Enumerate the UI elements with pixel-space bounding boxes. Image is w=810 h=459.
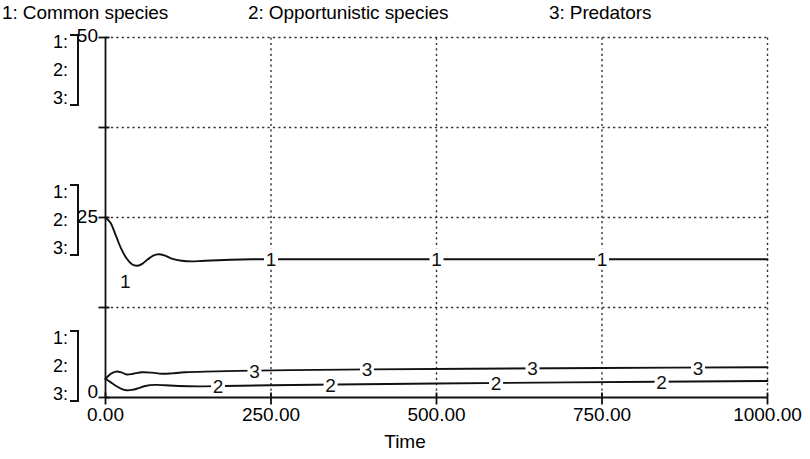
curve-label-3: 3 [527,358,538,379]
curve-label-3: 3 [249,361,260,382]
x-tick-label-1: 250.00 [242,404,300,426]
curve-label-2: 2 [656,372,667,393]
curve-label-1: 1 [431,249,442,270]
x-tick-label-2: 500.00 [407,404,465,426]
curve-label-2: 2 [491,373,502,394]
curve-label-2: 2 [325,375,336,396]
axis-ticks [99,38,768,405]
x-tick-label-3: 750.00 [573,404,631,426]
vertical-gridlines [271,38,768,398]
curve-inline-labels: 111222233331 [120,248,705,397]
curve-label-3: 3 [693,358,704,379]
x-tick-label-4: 1000.00 [733,404,802,426]
curve-label-2: 2 [213,376,224,397]
plot-area: 111222233331 [0,0,810,459]
curve-start-label-1: 1 [120,271,131,292]
x-tick-label-0: 0.00 [87,404,124,426]
chart-screenshot: 1: Common species 2: Opportunistic speci… [0,0,810,459]
x-axis-title: Time [0,431,810,453]
curve-label-1: 1 [266,249,277,270]
curve-label-3: 3 [362,359,373,380]
curve-label-1: 1 [597,249,608,270]
